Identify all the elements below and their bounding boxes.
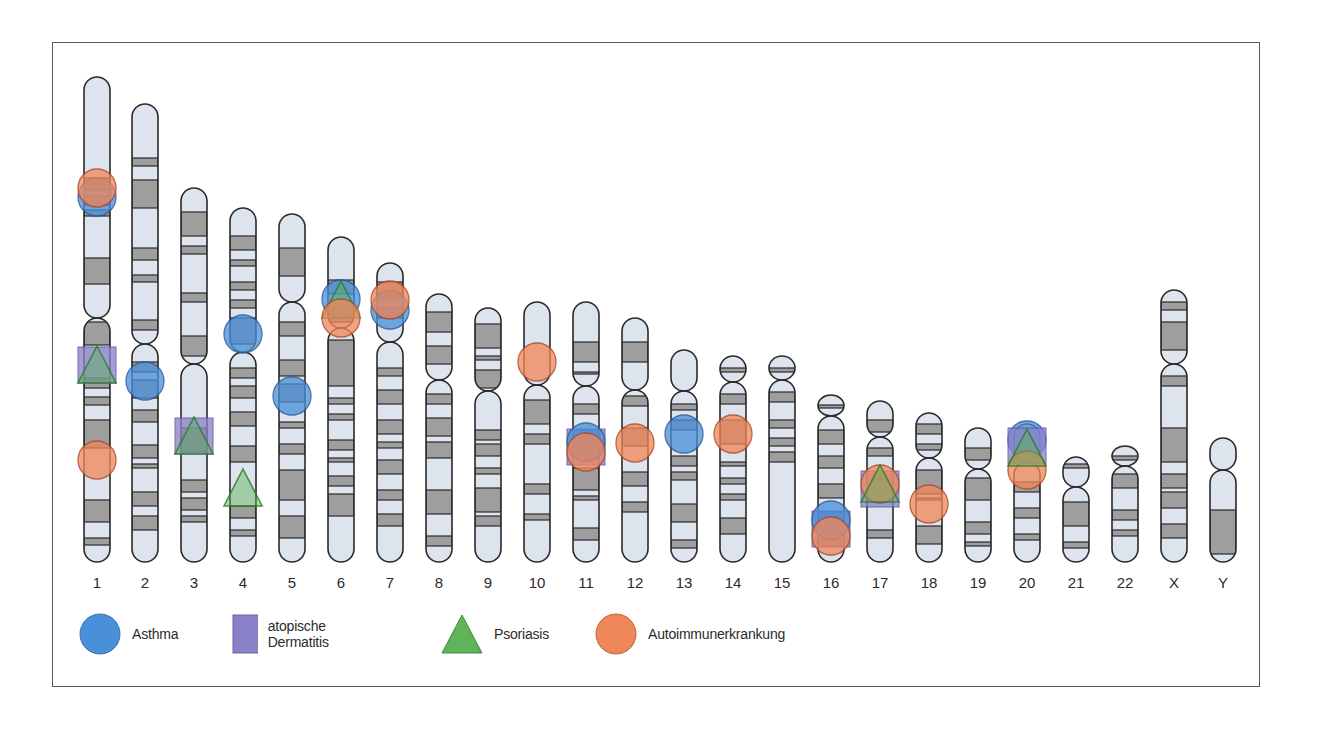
chromosome-label: X [1169, 574, 1179, 591]
autoimmune-marker [371, 281, 409, 319]
autoimmune-marker [910, 485, 948, 523]
chromosome-Y [1210, 438, 1236, 562]
chromosome-label: 17 [872, 574, 889, 591]
chromosome-label: 8 [435, 574, 443, 591]
autoimmune-marker [567, 433, 605, 471]
chromosome-2 [132, 104, 158, 562]
chromosome-label: 14 [725, 574, 742, 591]
autoimmune-marker [322, 299, 360, 337]
legend-label-autoimmune: Autoimmunerkrankung [648, 626, 785, 642]
chromosome-label: 1 [93, 574, 101, 591]
chromosome-label: 21 [1068, 574, 1085, 591]
chromosome-4 [230, 208, 256, 562]
chromosome-9 [475, 308, 501, 562]
chromosome-label: 11 [578, 574, 594, 591]
autoimmune-marker [616, 424, 654, 462]
legend-item-asthma: Asthma [78, 612, 178, 656]
chromosome-label: 18 [921, 574, 938, 591]
legend-item-dermatitis: atopische Dermatitis [230, 612, 345, 656]
chromosome-label: 12 [627, 574, 644, 591]
asthma-marker [273, 377, 311, 415]
chromosome-10 [524, 302, 550, 562]
chromosome-label: Y [1218, 574, 1228, 591]
autoimmune-circle-icon [594, 612, 638, 656]
chromosome-1 [84, 77, 110, 562]
chromosome-22 [1112, 446, 1138, 562]
psoriasis-triangle-icon [440, 612, 484, 656]
chromosome-label: 2 [141, 574, 149, 591]
autoimmune-marker [714, 415, 752, 453]
autoimmune-marker [78, 441, 116, 479]
dermatitis-square-icon [230, 612, 258, 656]
asthma-marker [224, 315, 262, 353]
chromosome-label: 7 [386, 574, 394, 591]
chromosome-label: 9 [484, 574, 492, 591]
chromosome-8 [426, 294, 452, 562]
chromosome-label: 4 [239, 574, 247, 591]
autoimmune-marker [518, 343, 556, 381]
legend-label-dermatitis: atopische Dermatitis [268, 618, 345, 650]
chromosome-label: 10 [529, 574, 546, 591]
asthma-marker [126, 362, 164, 400]
chromosome-label: 5 [288, 574, 296, 591]
chromosome-label: 19 [970, 574, 987, 591]
chromosome-19 [965, 428, 991, 562]
legend-label-asthma: Asthma [132, 626, 178, 642]
chromosome-13 [671, 350, 697, 562]
autoimmune-marker [812, 517, 850, 555]
chromosome-label: 22 [1117, 574, 1134, 591]
chromosome-label: 15 [774, 574, 791, 591]
chromosome-labels: 12345678910111213141516171819202122XY [93, 574, 1228, 591]
legend-label-psoriasis: Psoriasis [494, 626, 549, 642]
legend-item-autoimmune: Autoimmunerkrankung [594, 612, 785, 656]
chromosome-15 [769, 356, 795, 562]
autoimmune-marker [78, 169, 116, 207]
legend-item-psoriasis: Psoriasis [440, 612, 549, 656]
chromosome-label: 6 [337, 574, 345, 591]
chromosome-14 [720, 356, 746, 562]
chromosome-X [1161, 290, 1187, 562]
chromosome-3 [181, 188, 207, 562]
asthma-marker [665, 415, 703, 453]
chromosome-label: 20 [1019, 574, 1036, 591]
chromosome-label: 13 [676, 574, 693, 591]
asthma-circle-icon [78, 612, 122, 656]
chromosome-label: 3 [190, 574, 198, 591]
disease-markers [78, 169, 1046, 555]
chromosome-21 [1063, 457, 1089, 562]
chromosome-set [84, 77, 1236, 562]
chromosome-label: 16 [823, 574, 840, 591]
